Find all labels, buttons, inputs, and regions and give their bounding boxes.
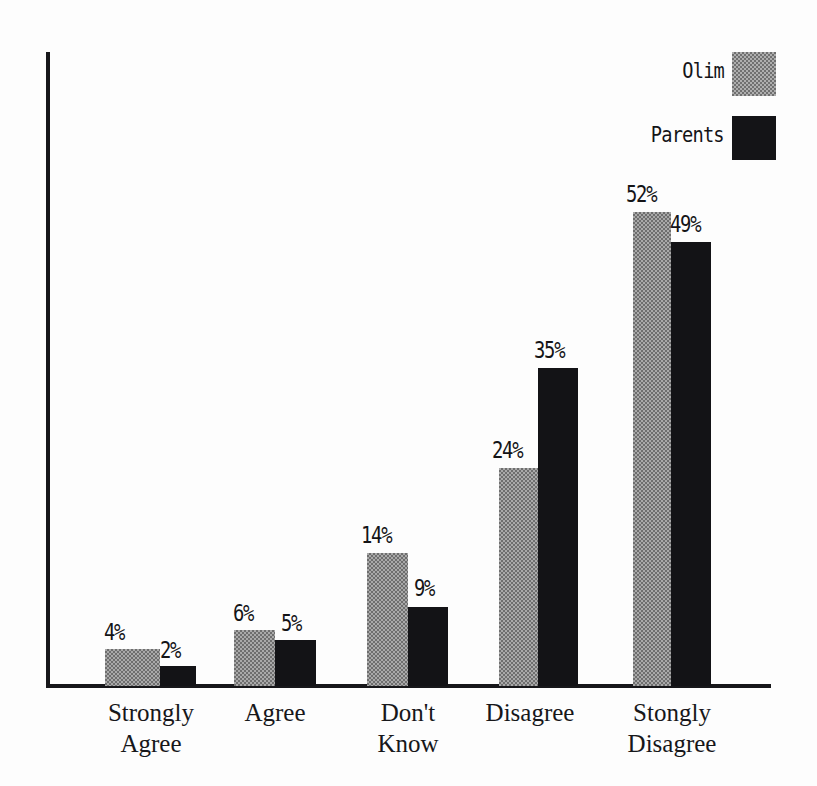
x-axis-category-line: Agree bbox=[200, 698, 350, 729]
legend-swatch-olim bbox=[732, 52, 776, 96]
legend-label-olim: Olim bbox=[682, 58, 724, 83]
bar-parents-don-t-know bbox=[408, 607, 448, 686]
legend-item-parents: Parents bbox=[620, 116, 790, 160]
x-axis-category-label: Agree bbox=[200, 698, 350, 729]
bar-olim-agree bbox=[234, 630, 275, 686]
x-axis-category-line: Stongly bbox=[592, 698, 752, 729]
bar-value-label: 35% bbox=[534, 337, 564, 363]
bar-value-label: 24% bbox=[492, 437, 522, 463]
bar-parents-stongly-disagree bbox=[671, 242, 711, 686]
bar-value-label: 5% bbox=[281, 610, 301, 636]
bar-value-label: 6% bbox=[233, 600, 253, 626]
legend-swatch-parents bbox=[732, 116, 776, 160]
bar-value-label: 49% bbox=[670, 211, 700, 237]
x-axis-category-line: Agree bbox=[76, 729, 226, 760]
chart-page: 4%2%6%5%14%9%24%35%52%49% StronglyAgreeA… bbox=[0, 0, 817, 786]
bar-olim-strongly-agree bbox=[105, 649, 160, 686]
bar-value-label: 9% bbox=[414, 575, 434, 601]
x-axis-category-label: Disagree bbox=[455, 698, 605, 729]
x-axis-category-line: Know bbox=[333, 729, 483, 760]
x-axis-category-line: Disagree bbox=[455, 698, 605, 729]
bar-parents-disagree bbox=[538, 368, 578, 686]
bar-parents-agree bbox=[275, 640, 316, 686]
legend-label-parents: Parents bbox=[651, 122, 724, 147]
legend-item-olim: Olim bbox=[620, 52, 790, 96]
bar-olim-disagree bbox=[499, 468, 538, 686]
bar-value-label: 4% bbox=[104, 619, 124, 645]
x-axis-category-line: Disagree bbox=[592, 729, 752, 760]
bar-olim-stongly-disagree bbox=[633, 212, 671, 686]
bar-parents-strongly-agree bbox=[160, 666, 196, 686]
x-axis-category-label: StonglyDisagree bbox=[592, 698, 752, 759]
y-axis-line bbox=[46, 52, 50, 688]
bar-value-label: 2% bbox=[160, 637, 180, 663]
chart-legend: Olim Parents bbox=[620, 48, 790, 173]
bar-value-label: 14% bbox=[361, 522, 391, 548]
bar-olim-don-t-know bbox=[367, 553, 408, 686]
bar-value-label: 52% bbox=[626, 181, 656, 207]
